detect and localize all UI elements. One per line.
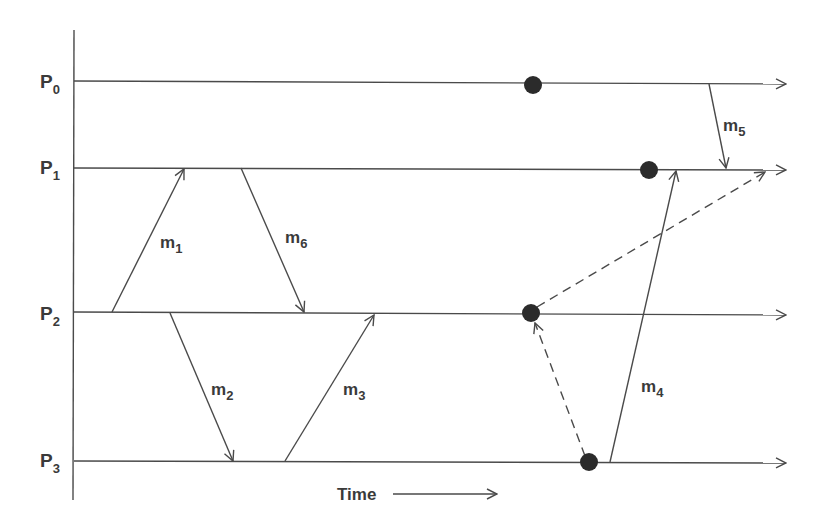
message-label-m2: m2 — [211, 380, 233, 403]
event-dot-p1 — [640, 161, 658, 179]
process-label-p0: P0 — [40, 71, 60, 97]
message-label-m3: m3 — [343, 380, 365, 403]
dashed-arrow-p3-to-p2 — [535, 323, 585, 456]
timeline-p2 — [74, 312, 786, 315]
process-label-p2: P2 — [40, 303, 60, 329]
event-dot-p2 — [522, 304, 540, 322]
process-label-p3: P3 — [40, 450, 60, 476]
message-label-m4: m4 — [641, 377, 664, 400]
process-label-p1: P1 — [40, 157, 60, 183]
timeline-p3 — [74, 461, 786, 463]
vertical-axis — [73, 30, 74, 500]
message-label-m6: m6 — [285, 228, 307, 251]
message-label-m1: m1 — [160, 233, 182, 256]
dashed-arrow-p2-to-p1 — [537, 172, 765, 307]
timeline-p0 — [74, 81, 786, 84]
event-dot-p3 — [580, 453, 598, 471]
message-m4-arrow — [610, 171, 676, 462]
timeline-p1 — [74, 168, 786, 170]
time-label: Time — [337, 485, 376, 504]
message-label-m5: m5 — [723, 116, 745, 139]
event-dot-p0 — [524, 76, 542, 94]
space-time-diagram: P0 P1 P2 P3 m1 m6 m2 m3 m4 m5 Time — [0, 0, 822, 532]
